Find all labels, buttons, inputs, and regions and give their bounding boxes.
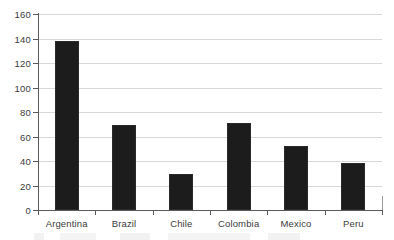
x-axis-tick [325, 210, 326, 215]
x-axis-label: Argentina [46, 218, 88, 229]
plot-right-edge [382, 196, 383, 211]
gridline [38, 88, 382, 89]
gridline [38, 161, 382, 162]
y-axis-label: 40 [20, 156, 31, 167]
y-axis-tick [33, 161, 38, 162]
y-axis-label: 80 [20, 107, 31, 118]
gridline [38, 112, 382, 113]
x-axis-label: Mexico [281, 218, 312, 229]
y-axis-tick [33, 112, 38, 113]
bar [55, 41, 79, 210]
bar [169, 174, 193, 210]
bar [112, 125, 136, 210]
gridline [38, 63, 382, 64]
y-axis-label: 140 [15, 33, 31, 44]
y-axis-tick [33, 14, 38, 15]
x-axis-tick [382, 210, 383, 215]
gridline [38, 39, 382, 40]
x-axis-tick [210, 210, 211, 215]
x-axis-label: Colombia [218, 218, 259, 229]
y-axis-label: 160 [15, 9, 31, 20]
gridline [38, 186, 382, 187]
gridline [38, 137, 382, 138]
y-axis-label: 120 [15, 58, 31, 69]
gridline [38, 14, 382, 15]
x-axis-label: Peru [343, 218, 364, 229]
y-axis-line [38, 13, 39, 211]
bar-chart: 020406080100120140160 ArgentinaBrazilChi… [0, 0, 394, 240]
x-axis-tick [95, 210, 96, 215]
y-axis-tick [33, 39, 38, 40]
y-axis-tick [33, 137, 38, 138]
scan-artifact [0, 233, 394, 240]
y-axis-tick [33, 88, 38, 89]
y-axis-tick [33, 63, 38, 64]
y-axis-label: 20 [20, 180, 31, 191]
x-axis-tick [38, 210, 39, 215]
y-axis-tick [33, 186, 38, 187]
bar [284, 146, 308, 210]
y-axis-label: 60 [20, 131, 31, 142]
x-axis-label: Chile [170, 218, 192, 229]
bar [341, 163, 365, 210]
bar [227, 123, 251, 210]
y-axis-label: 100 [15, 82, 31, 93]
plot-area [38, 14, 382, 210]
x-axis-tick [267, 210, 268, 215]
x-axis-label: Brazil [112, 218, 137, 229]
y-axis-label: 0 [26, 205, 31, 216]
x-axis-tick [153, 210, 154, 215]
